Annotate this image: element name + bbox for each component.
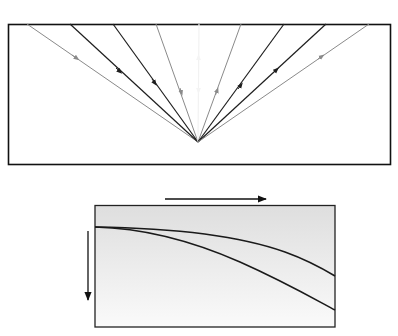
ray-down-1 [27,24,198,142]
ray-up-4 [198,24,369,142]
arrow-down-1 [72,55,77,59]
moveout-plot [88,199,335,327]
model-frame [9,25,391,165]
layered-earth-model [9,25,391,165]
ray-up-3 [198,24,326,142]
plot-area [95,206,335,328]
ray-up-2 [198,24,284,142]
ray-paths [27,24,369,142]
ray-down-2 [70,24,198,142]
arrow-up-4 [318,56,322,59]
ray-zero-offset [198,24,199,142]
seismic-diagram [0,0,398,336]
ray-down-4 [156,24,198,142]
ray-down-3 [113,24,198,142]
arrow-up-3 [273,70,277,73]
ray-up-1 [198,24,241,142]
